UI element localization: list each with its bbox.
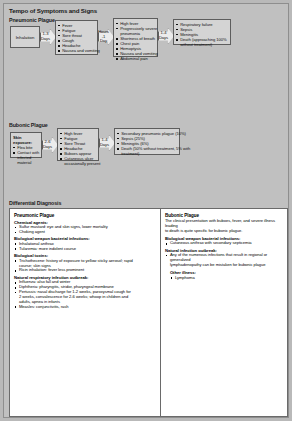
list-item-continuation: lymphadenopathy can be mistaken for bubo…: [165, 263, 283, 268]
list-item: Abdominal pain: [116, 56, 155, 61]
differential-diagnosis-box: Pneumonic Plague Chemical agents: Sulfur…: [9, 208, 288, 417]
diff-list-other-illness: Lymphoma: [170, 276, 283, 281]
diff-list-bio-bacterial: Inhalational anthrax Tularemia: more ind…: [14, 242, 156, 252]
arrow-bubonic-1-label: 2-6 Days: [43, 140, 57, 149]
arrow-label-line2: Days: [41, 37, 50, 42]
diff-list-bio-toxins: Trichothecene: history of exposure to ye…: [14, 259, 156, 274]
symptom-list: Respiratory failure Sepsis Meningitis De…: [176, 22, 228, 47]
node-pneumonic-stage-1: Fever Fatigue Sore throat Cough Headache…: [55, 20, 98, 55]
document-page: Tempo of Symptoms and Signs Pneumonic Pl…: [0, 0, 292, 421]
arrow-pneumonic-3-label: 1-4 Days: [159, 31, 173, 40]
symptom-list: High fever Fatigue Sore Throat Headache …: [60, 131, 96, 166]
list-item: Choking agent: [14, 230, 156, 235]
symptom-list: Fever Fatigue Sore throat Cough Headache…: [58, 23, 95, 53]
list-item-continuation: occasionally present: [60, 161, 96, 166]
symptom-list: High fever Progressively severe pneumoni…: [116, 21, 155, 61]
exposure-list: Flea bite Contact with infected material: [13, 145, 39, 165]
arrow-bubonic-2: 1-4 Days: [99, 135, 115, 151]
symptom-list: Secondary pneumonic plague (10%) Sepsis …: [117, 131, 177, 156]
diff-list-natural-respiratory: Influenza: also fall and winter Diphther…: [14, 280, 156, 309]
diff-list-bio-bacterial-bubonic: Cutaneous anthrax with secondary septice…: [165, 241, 283, 246]
diff-list-chemical: Sulfur mustard: eye and skin signs, lowe…: [14, 225, 156, 235]
arrow-pneumonic-2-label: Hours -1 Day: [98, 30, 114, 44]
list-item: Cutaneous anthrax with secondary septice…: [165, 241, 283, 246]
node-skin-exposure-label: Skin exposure:: [13, 135, 39, 145]
node-skin-exposure: Skin exposure: Flea bite Contact with in…: [10, 132, 42, 158]
section-title-differential: Differential Diagnosis: [9, 200, 61, 206]
arrow-bubonic-1: 2-6 Days: [42, 137, 58, 153]
differential-column-bubonic: Bubonic Plague The clinical presentation…: [161, 209, 287, 416]
node-pneumonic-stage-2: High fever Progressively severe pneumoni…: [113, 18, 158, 57]
diagram-panel: Tempo of Symptoms and Signs Pneumonic Pl…: [3, 3, 289, 418]
arrow-pneumonic-1: 1-3 Days: [40, 29, 56, 45]
arrow-bubonic-2-label: 1-4 Days: [100, 138, 114, 147]
section-title-bubonic: Bubonic Plague: [9, 122, 48, 128]
node-bubonic-stage-1: High fever Fatigue Sore Throat Headache …: [57, 128, 99, 161]
node-inhalation-label: Inhalation: [16, 35, 35, 40]
arrow-label-line2: -1 Day: [98, 35, 109, 44]
differential-column-pneumonic: Pneumonic Plague Chemical agents: Sulfur…: [10, 209, 161, 416]
arrow-label-line2: Days: [43, 145, 52, 150]
node-bubonic-stage-2: Secondary pneumonic plague (10%) Sepsis …: [114, 128, 180, 155]
diff-heading-pneumonic: Pneumonic Plague: [14, 213, 156, 218]
diff-intro-line2: to death is quite specific for bubonic p…: [165, 229, 283, 234]
arrow-pneumonic-1-label: 1-3 Days: [41, 32, 55, 41]
list-item: Lymphoma: [170, 276, 283, 281]
list-item-continuation: material: [13, 160, 39, 165]
node-pneumonic-stage-3: Respiratory failure Sepsis Meningitis De…: [173, 19, 231, 45]
list-item: Ricin inhalation: fever less prominent: [14, 268, 156, 273]
list-item-continuation: without treatment): [176, 42, 228, 47]
page-title: Tempo of Symptoms and Signs: [9, 7, 97, 14]
node-inhalation: Inhalation: [10, 26, 40, 48]
diff-list-natural-infection: Any of the numerous infections that resu…: [165, 253, 283, 268]
list-item: Tularemia: more indolent course: [14, 247, 156, 252]
list-item-continuation: treatment): [117, 151, 177, 156]
arrow-pneumonic-2: Hours -1 Day: [98, 29, 114, 45]
arrow-label-line2: Days: [100, 143, 109, 148]
list-item: Nausea and vomiting: [58, 48, 95, 53]
list-item: Measles: conjunctivitis, rash: [14, 305, 156, 310]
arrow-label-line2: Days: [159, 36, 168, 41]
section-title-pneumonic: Pneumonic Plague: [9, 17, 55, 23]
arrow-pneumonic-3: 1-4 Days: [158, 28, 174, 44]
